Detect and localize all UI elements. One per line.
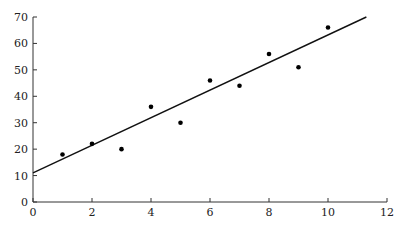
x-tick-label: 4 — [148, 206, 155, 219]
data-point — [119, 147, 124, 152]
x-axis-ticks: 024681012 — [30, 198, 395, 219]
y-tick-label: 60 — [14, 37, 28, 50]
data-point — [178, 120, 183, 125]
y-tick-label: 20 — [14, 143, 28, 156]
fit-line — [33, 17, 366, 173]
x-tick-label: 10 — [321, 206, 335, 219]
x-tick-label: 12 — [380, 206, 394, 219]
scatter-chart: 024681012 010203040506070 — [0, 0, 403, 230]
x-tick-label: 0 — [30, 206, 37, 219]
y-tick-label: 30 — [14, 117, 28, 130]
data-point — [326, 25, 331, 30]
axes — [33, 17, 387, 202]
data-point — [296, 65, 301, 70]
data-point — [90, 142, 95, 147]
data-point — [149, 105, 154, 110]
y-tick-label: 50 — [14, 64, 28, 77]
y-tick-label: 40 — [14, 90, 28, 103]
y-tick-label: 0 — [21, 196, 28, 209]
x-tick-label: 6 — [207, 206, 214, 219]
x-tick-label: 8 — [266, 206, 273, 219]
data-point — [60, 152, 65, 157]
data-point — [237, 83, 242, 88]
regression-line — [33, 17, 366, 173]
data-point — [267, 52, 272, 57]
data-point — [208, 78, 213, 83]
x-tick-label: 2 — [89, 206, 96, 219]
y-axis-ticks: 010203040506070 — [14, 11, 37, 209]
y-tick-label: 70 — [14, 11, 28, 24]
data-points — [60, 25, 330, 156]
y-tick-label: 10 — [14, 170, 28, 183]
